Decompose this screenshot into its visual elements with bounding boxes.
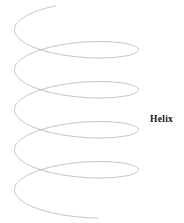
helix-label: Helix [150,113,173,125]
helix-figure: Helix [0,0,184,223]
helix-curve [15,6,139,218]
helix-diagram [0,0,184,223]
